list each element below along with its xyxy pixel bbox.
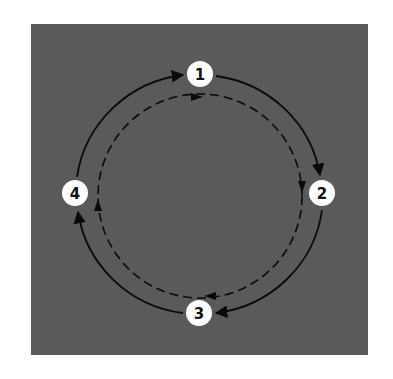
node-1: 1 — [187, 61, 213, 87]
cycle-diagram: 1 2 3 4 — [0, 0, 393, 379]
node-3: 3 — [186, 300, 212, 326]
node-3-label: 3 — [194, 305, 204, 323]
node-4-label: 4 — [70, 185, 80, 203]
node-4: 4 — [62, 180, 88, 206]
node-2-label: 2 — [317, 185, 327, 203]
node-2: 2 — [309, 180, 335, 206]
node-1-label: 1 — [195, 66, 205, 84]
